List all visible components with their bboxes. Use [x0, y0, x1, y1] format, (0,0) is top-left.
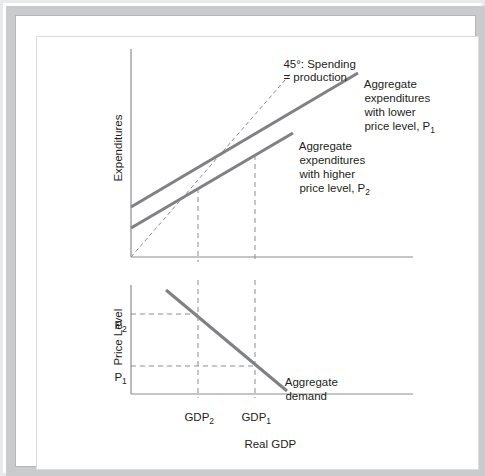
bottom-panel-x-axis-label: Real GDP	[238, 424, 296, 451]
forty-five-degree-label-line2: = production	[277, 57, 347, 84]
p1-subscript: 1	[122, 376, 127, 386]
top-panel-y-axis-label: Expenditures	[98, 114, 125, 188]
ae-higher-price-level-line	[131, 133, 293, 228]
p2-tick-label: P2	[108, 307, 127, 334]
forty-five-degree-line	[131, 72, 292, 257]
ae-higher-price-label-line4: price level, P2	[293, 168, 370, 199]
gdp2-subscript: 2	[209, 416, 214, 426]
ae-higher-price-subscript: 2	[365, 187, 370, 197]
aggregate-demand-curve	[166, 290, 287, 391]
aggregate-demand-label-line2: demand	[279, 376, 327, 403]
gdp1-tick-label: GDP1	[235, 399, 271, 426]
p1-tick-label: P1	[108, 359, 127, 386]
p2-subscript: 2	[122, 324, 127, 334]
gdp2-tick-label: GDP2	[178, 399, 214, 426]
ae-lower-price-label-line4: price level, P1	[358, 106, 435, 137]
ae-lower-price-subscript: 1	[430, 125, 435, 135]
